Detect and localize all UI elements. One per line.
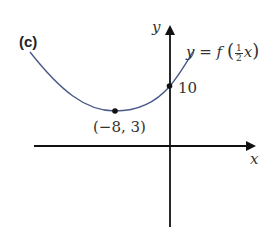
equation-var: x bbox=[244, 43, 252, 61]
part-label: (c) bbox=[19, 33, 37, 50]
minimum-point-label: (−8, 3) bbox=[93, 118, 146, 136]
y-axis-label: y bbox=[152, 18, 160, 36]
graph-canvas bbox=[0, 0, 276, 234]
x-axis-label: x bbox=[250, 150, 258, 168]
graph-figure: (c) y x y = f (12x) 10 (−8, 3) bbox=[0, 0, 276, 234]
y-intercept-label: 10 bbox=[178, 79, 197, 97]
minimum-point bbox=[112, 108, 118, 114]
equation-fraction: 12 bbox=[235, 44, 243, 63]
equation-equals: = bbox=[194, 43, 216, 61]
equation-f: f bbox=[217, 43, 223, 61]
curve-equation: y = f (12x) bbox=[186, 40, 259, 63]
y-intercept-point bbox=[167, 83, 173, 89]
